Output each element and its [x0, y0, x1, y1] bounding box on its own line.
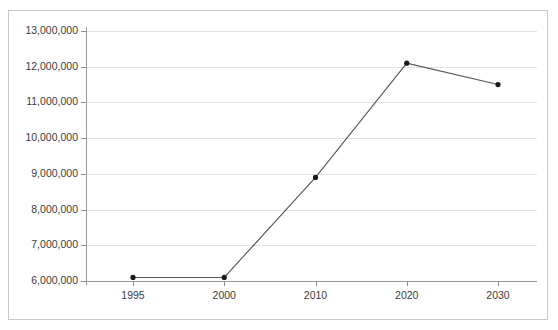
data-point-marker: [404, 61, 409, 66]
data-point-marker: [222, 275, 227, 280]
series-markers-group: [130, 61, 500, 280]
data-point-marker: [130, 275, 135, 280]
series-line-path: [133, 63, 498, 277]
data-point-marker: [495, 82, 500, 87]
data-series-layer: [0, 0, 558, 330]
data-point-marker: [313, 175, 318, 180]
line-chart-figure: 6,000,0007,000,0008,000,0009,000,00010,0…: [0, 0, 558, 330]
